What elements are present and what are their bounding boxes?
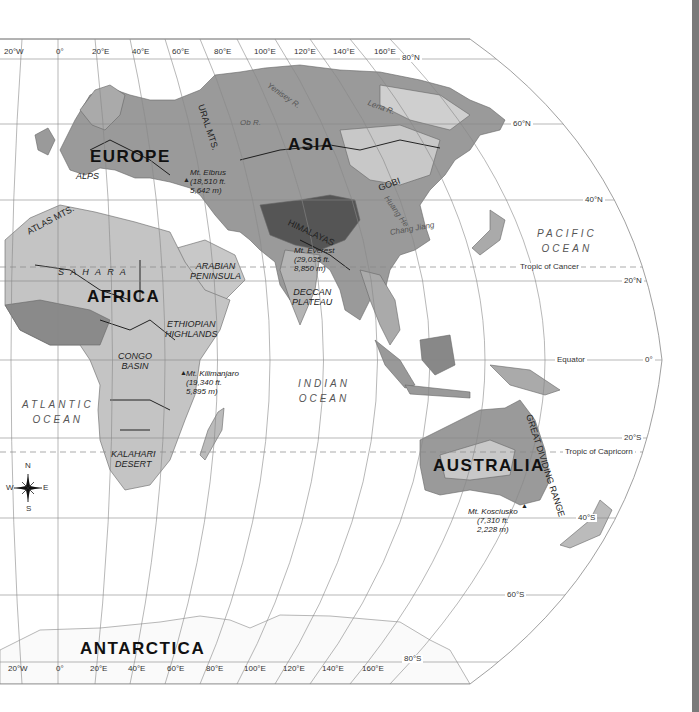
lat-label-equator: 0° (643, 356, 655, 364)
lat-label-40s: 40°S (576, 514, 597, 522)
ocean-label-indian: INDIAN OCEAN (298, 376, 350, 406)
peak-height-m: 5,642 m) (190, 186, 226, 195)
lat-label-60s: 60°S (505, 591, 526, 599)
lon-label-top: 100°E (254, 48, 276, 56)
lat-label-80s: 80°S (402, 655, 423, 663)
region-label-deccan-plateau: DECCAN PLATEAU (292, 288, 332, 308)
region-label-line: PLATEAU (292, 298, 332, 308)
region-label-kalahari-desert: KALAHARI DESERT (111, 450, 156, 470)
lon-label-bottom: 100°E (244, 665, 266, 673)
lon-label-bottom: 20°E (90, 665, 107, 673)
lon-label-top: 60°E (172, 48, 189, 56)
compass-s: S (26, 505, 31, 513)
continent-label-europe: EUROPE (90, 148, 171, 165)
ocean-label-line: OCEAN (537, 241, 597, 256)
lat-label-40n: 40°N (583, 196, 605, 204)
peak-label-elbrus: Mt. Elbrus (18,510 ft. 5,642 m) (190, 168, 226, 196)
peak-marker-triangle-icon: ▲ (521, 502, 528, 509)
ocean-label-pacific: PACIFIC OCEAN (537, 226, 597, 256)
continent-label-asia: ASIA (288, 136, 335, 153)
peak-label-kosciusko: Mt. Kosciusko (7,310 ft. 2,228 m) (468, 507, 518, 535)
peak-height-ft: (7,310 ft. (468, 516, 518, 525)
peak-marker-triangle-icon: ▲ (183, 176, 190, 183)
region-label-sahara: S A H A R A (58, 268, 128, 278)
page-edge-bar (692, 0, 699, 712)
lon-label-top: 80°E (214, 48, 231, 56)
lon-label-bottom: 0° (56, 665, 64, 673)
ocean-label-line: PACIFIC (537, 226, 597, 241)
peak-label-everest: Mt. Everest (29,035 ft. 8,850 m) (294, 246, 334, 274)
peak-name: Mt. Elbrus (190, 168, 226, 177)
compass-w: W (6, 484, 14, 492)
map-body (0, 39, 699, 689)
peak-height-ft: (29,035 ft. (294, 255, 334, 264)
peak-name: Mt. Kosciusko (468, 507, 518, 516)
lon-label-bottom: 120°E (283, 665, 305, 673)
lon-label-bottom: 140°E (322, 665, 344, 673)
continent-label-antarctica: ANTARCTICA (80, 640, 205, 657)
lon-label-top: 40°E (132, 48, 149, 56)
lon-label-top: 20°W (4, 48, 24, 56)
ocean-label-line: OCEAN (22, 412, 94, 427)
lon-label-bottom: 20°W (8, 665, 28, 673)
peak-height-m: 5,895 m) (186, 387, 239, 396)
peak-marker-triangle-icon: ▲ (180, 369, 187, 376)
compass-rose: N S W E (4, 462, 52, 514)
ocean-label-line: OCEAN (298, 391, 350, 406)
region-label-arabian-peninsula: ARABIAN PENINSULA (190, 262, 241, 282)
lat-label-20n: 20°N (622, 277, 644, 285)
lon-label-top: 0° (56, 48, 64, 56)
region-label-ethiopian-highlands: ETHIOPIAN HIGHLANDS (165, 320, 218, 340)
ocean-label-atlantic: ATLANTIC OCEAN (22, 397, 94, 427)
peak-height-ft: (18,510 ft. (190, 177, 226, 186)
region-label-alps: ALPS (76, 172, 99, 182)
tropic-of-cancer-label: Tropic of Cancer (518, 263, 581, 271)
lon-label-top: 20°E (92, 48, 109, 56)
region-label-congo-basin: CONGO BASIN (118, 352, 152, 372)
lon-label-bottom: 80°E (206, 665, 223, 673)
lon-label-top: 140°E (333, 48, 355, 56)
river-label-ob: Ob R. (240, 118, 261, 127)
ocean-label-line: ATLANTIC (22, 397, 94, 412)
continent-label-africa: AFRICA (87, 288, 160, 305)
compass-e: E (43, 484, 48, 492)
region-label-line: BASIN (118, 362, 152, 372)
lat-label-80n: 80°N (400, 54, 422, 62)
peak-name: Mt. Everest (294, 246, 334, 255)
ocean-label-line: INDIAN (298, 376, 350, 391)
tropic-of-capricorn-label: Tropic of Capricorn (563, 448, 635, 456)
equator-label: Equator (555, 356, 587, 364)
lon-label-bottom: 40°E (128, 665, 145, 673)
lon-label-bottom: 160°E (362, 665, 384, 673)
peak-height-ft: (19,340 ft. (186, 378, 239, 387)
lon-label-bottom: 60°E (167, 665, 184, 673)
peak-name: Mt. Kilimanjaro (186, 369, 239, 378)
peak-label-kilimanjaro: Mt. Kilimanjaro (19,340 ft. 5,895 m) (186, 369, 239, 397)
peak-height-m: 8,850 m) (294, 264, 334, 273)
continent-label-australia: AUSTRALIA (433, 457, 545, 474)
peak-height-m: 2,228 m) (468, 525, 518, 534)
lon-label-top: 160°E (374, 48, 396, 56)
region-label-line: DESERT (111, 460, 156, 470)
lat-label-60n: 60°N (511, 120, 533, 128)
compass-n: N (25, 462, 31, 470)
region-label-line: PENINSULA (190, 272, 241, 282)
region-label-line: HIGHLANDS (165, 330, 218, 340)
lon-label-top: 120°E (294, 48, 316, 56)
world-map-eastern-hemisphere (0, 0, 699, 712)
lat-label-20s: 20°S (622, 434, 643, 442)
